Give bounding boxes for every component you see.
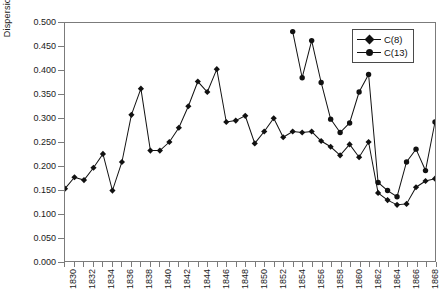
data-point-diamond	[233, 118, 239, 124]
x-axis-tick-label: 1864	[392, 269, 402, 289]
data-point-diamond	[432, 176, 435, 182]
x-axis-tick	[74, 262, 75, 267]
data-point-diamond	[242, 113, 248, 119]
data-point-circle	[356, 89, 361, 94]
x-axis-tick	[398, 262, 399, 267]
x-axis-tick	[188, 262, 189, 267]
x-axis-tick	[341, 262, 342, 267]
data-point-diamond	[147, 147, 153, 153]
legend-item-c13: C(13)	[357, 46, 408, 59]
x-axis-tick-label: 1846	[221, 269, 231, 289]
data-point-diamond	[223, 119, 229, 125]
chart-legend: C(8) C(13)	[352, 29, 414, 63]
x-axis-tick	[207, 262, 208, 267]
y-axis-labels: 0.0000.0500.1000.1500.2000.2500.3000.350…	[0, 0, 56, 302]
data-point-circle	[423, 168, 428, 173]
legend-label-c13: C(13)	[384, 47, 408, 58]
data-point-diamond	[299, 129, 305, 135]
x-axis-tick-label: 1830	[68, 269, 78, 289]
x-axis-tick	[226, 262, 227, 267]
y-axis-tick-label: 0.150	[4, 185, 56, 195]
data-point-circle	[413, 146, 418, 151]
data-point-diamond	[413, 184, 419, 190]
data-point-circle	[347, 120, 352, 125]
x-axis-tick-label: 1868	[430, 269, 440, 289]
x-axis-tick	[159, 262, 160, 267]
x-axis-tick	[236, 262, 237, 267]
y-axis-tick	[58, 22, 64, 23]
x-axis-tick-label: 1844	[202, 269, 212, 289]
x-axis-tick-label: 1852	[278, 269, 288, 289]
x-axis-tick	[379, 262, 380, 267]
x-axis-tick	[121, 262, 122, 267]
y-axis-tick-label: 0.350	[4, 89, 56, 99]
x-axis-tick	[388, 262, 389, 267]
x-axis-tick-label: 1834	[106, 269, 116, 289]
x-axis-tick-label: 1866	[411, 269, 421, 289]
x-axis-tick	[140, 262, 141, 267]
data-point-diamond	[176, 125, 182, 131]
y-axis-tick	[58, 238, 64, 239]
data-point-circle	[394, 194, 399, 199]
x-axis-tick	[293, 262, 294, 267]
x-axis-tick	[407, 262, 408, 267]
data-point-diamond	[100, 151, 106, 157]
y-axis-tick-label: 0.200	[4, 161, 56, 171]
x-axis-tick	[322, 262, 323, 267]
legend-marker-diamond-icon	[357, 34, 381, 45]
x-axis-tick	[93, 262, 94, 267]
data-point-diamond	[403, 201, 409, 207]
data-point-diamond	[422, 178, 428, 184]
data-point-circle	[290, 29, 295, 34]
x-axis-tick-label: 1842	[182, 269, 192, 289]
x-axis-tick	[64, 262, 65, 267]
x-axis-tick-label: 1832	[87, 269, 97, 289]
x-axis-tick-label: 1860	[354, 269, 364, 289]
y-axis-tick-label: 0.250	[4, 137, 56, 147]
x-axis-tick-label: 1856	[316, 269, 326, 289]
data-point-diamond	[185, 103, 191, 109]
x-axis-tick-label: 1848	[240, 269, 250, 289]
x-axis-tick	[169, 262, 170, 267]
y-axis-tick-label: 0.500	[4, 17, 56, 27]
x-axis-tick	[245, 262, 246, 267]
y-axis-tick	[58, 142, 64, 143]
x-axis-tick	[264, 262, 265, 267]
x-axis-tick	[255, 262, 256, 267]
data-point-circle	[375, 180, 380, 185]
x-axis-tick	[417, 262, 418, 267]
y-axis-tick-label: 0.100	[4, 209, 56, 219]
x-axis-tick-label: 1838	[144, 269, 154, 289]
data-point-circle	[309, 38, 314, 43]
x-axis-tick	[112, 262, 113, 267]
data-point-circle	[385, 188, 390, 193]
y-axis-tick	[58, 214, 64, 215]
data-point-diamond	[394, 202, 400, 208]
x-axis-tick	[274, 262, 275, 267]
y-axis-tick	[58, 94, 64, 95]
x-axis-tick	[312, 262, 313, 267]
x-axis-tick-label: 1836	[125, 269, 135, 289]
data-point-diamond	[271, 115, 277, 121]
x-axis-tick	[83, 262, 84, 267]
x-axis-tick	[198, 262, 199, 267]
data-point-diamond	[290, 128, 296, 134]
x-axis-tick	[350, 262, 351, 267]
x-axis-tick	[369, 262, 370, 267]
y-axis-tick-label: 0.400	[4, 65, 56, 75]
data-point-diamond	[214, 66, 220, 72]
x-axis-tick-label: 1854	[297, 269, 307, 289]
legend-item-c8: C(8)	[357, 33, 408, 46]
y-axis-tick-label: 0.300	[4, 113, 56, 123]
x-axis-tick	[283, 262, 284, 267]
x-axis-tick	[360, 262, 361, 267]
data-point-circle	[318, 80, 323, 85]
x-axis-tick	[302, 262, 303, 267]
data-point-diamond	[128, 112, 134, 118]
data-point-circle	[366, 72, 371, 77]
x-axis-tick	[178, 262, 179, 267]
data-point-circle	[432, 119, 435, 124]
y-axis-tick	[58, 70, 64, 71]
data-point-diamond	[138, 86, 144, 92]
data-point-diamond	[366, 139, 372, 145]
